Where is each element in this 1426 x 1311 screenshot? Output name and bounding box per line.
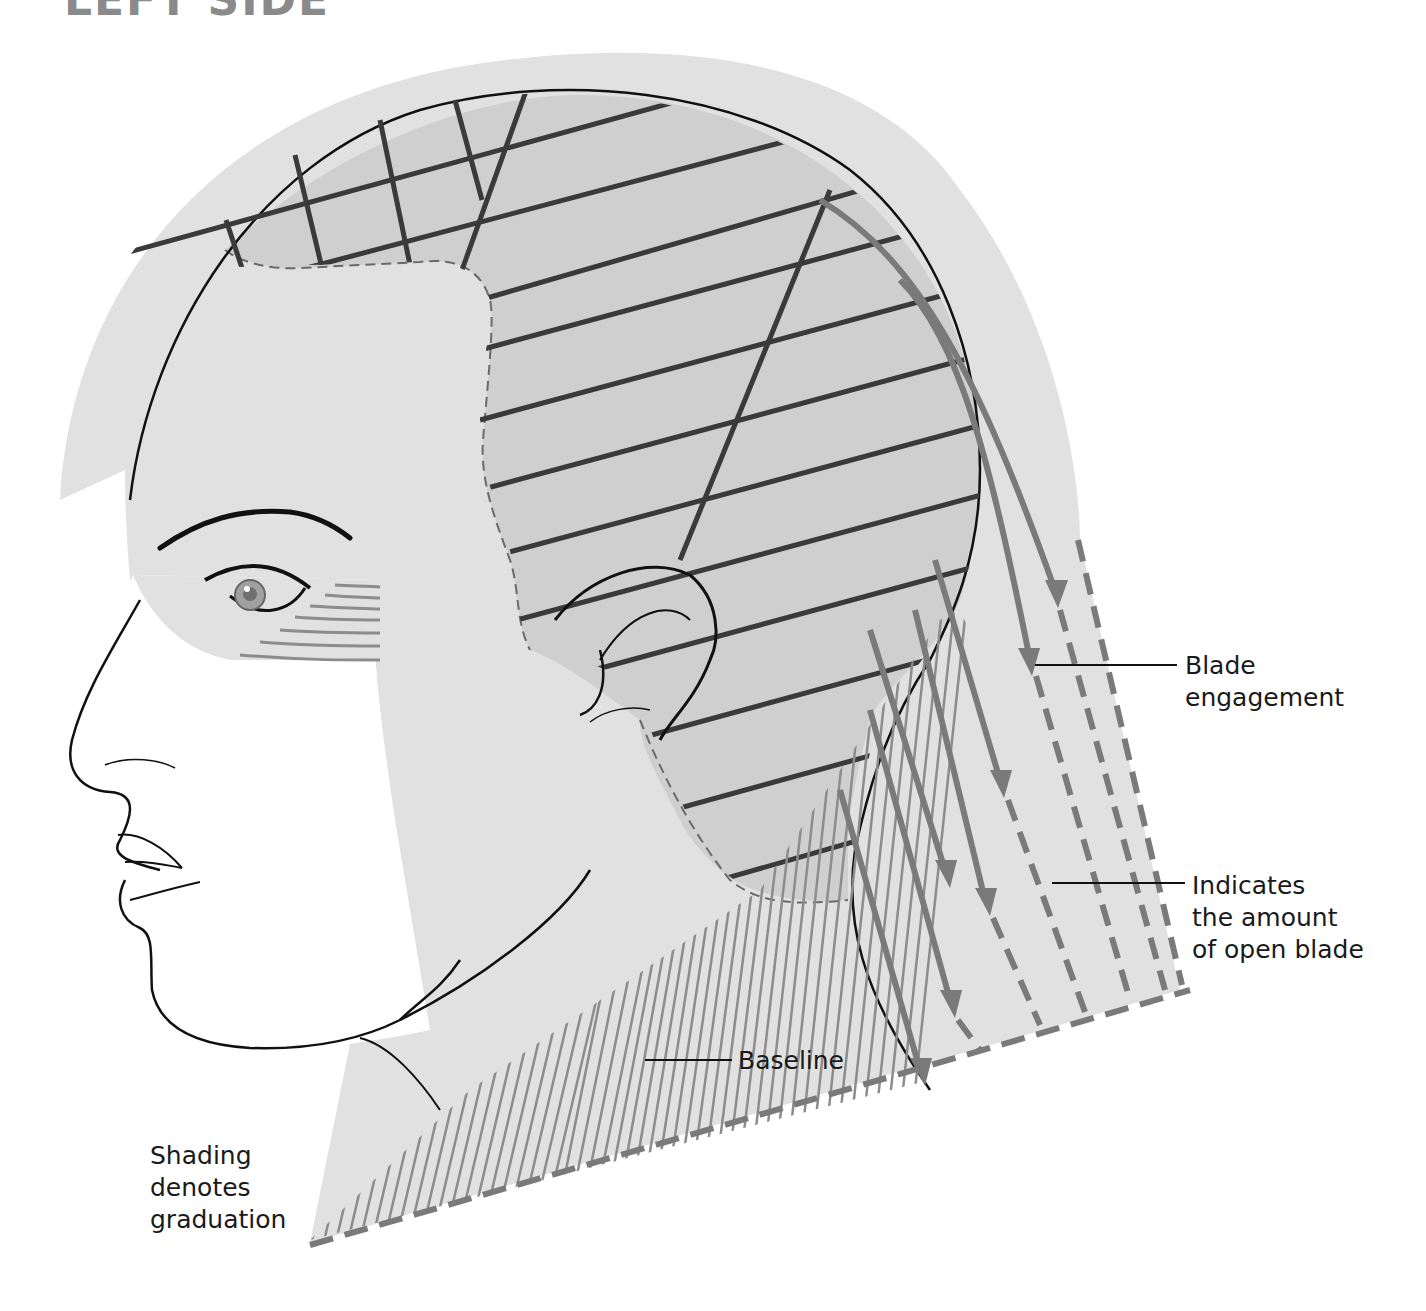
label-line: graduation xyxy=(150,1204,286,1236)
shading-label: Shading denotes graduation xyxy=(150,1140,286,1236)
label-line: Indicates xyxy=(1192,870,1364,902)
label-line: Blade xyxy=(1185,650,1344,682)
label-line: the amount xyxy=(1192,902,1364,934)
open-blade-label: Indicates the amount of open blade xyxy=(1192,870,1364,966)
label-line: of open blade xyxy=(1192,934,1364,966)
diagram-heading: LEFT SIDE xyxy=(64,0,330,25)
label-line: engagement xyxy=(1185,682,1344,714)
diagram-canvas: LEFT SIDE xyxy=(0,0,1426,1311)
blade-engagement-label: Blade engagement xyxy=(1185,650,1344,714)
label-line: Baseline xyxy=(738,1045,844,1077)
label-line: denotes xyxy=(150,1172,286,1204)
baseline-label: Baseline xyxy=(738,1045,844,1077)
label-line: Shading xyxy=(150,1140,286,1172)
